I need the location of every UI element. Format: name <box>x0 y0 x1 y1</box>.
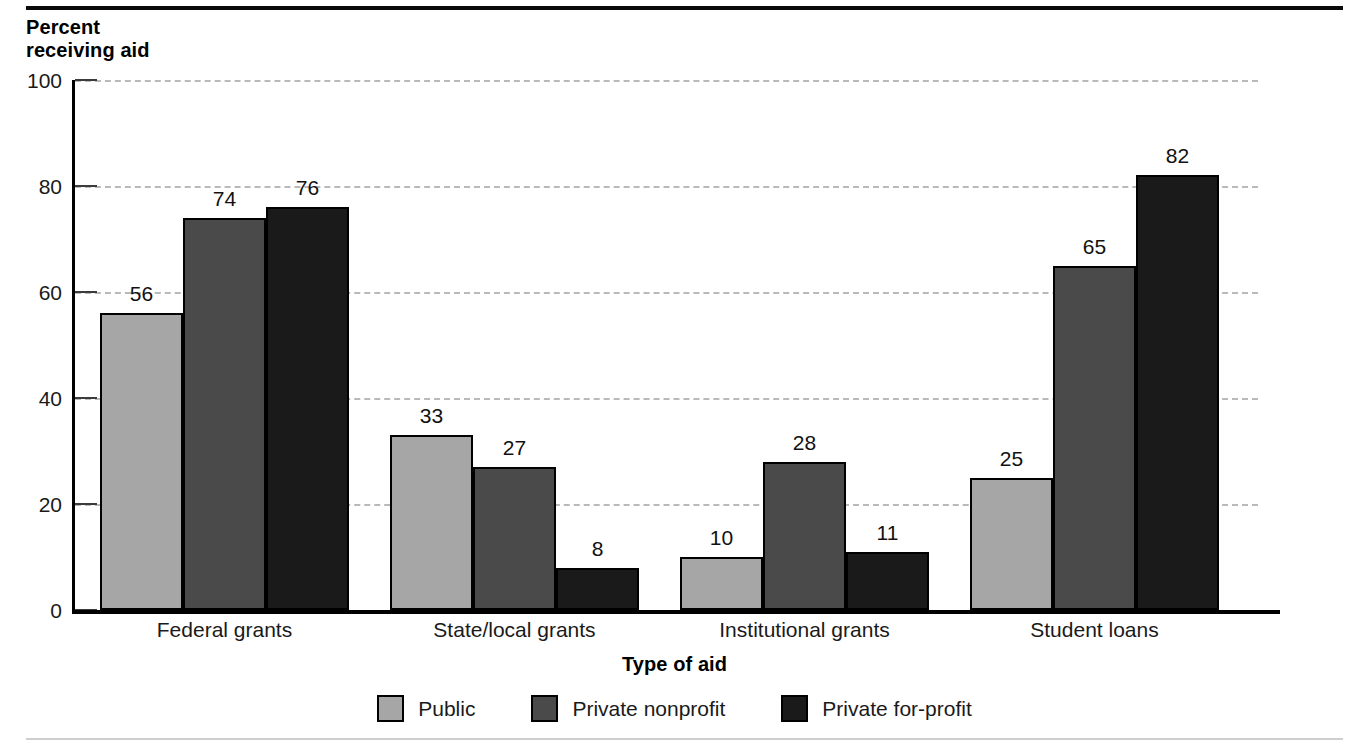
legend-swatch-icon <box>781 695 808 722</box>
legend-label: Public <box>418 698 475 719</box>
bar-value-label: 11 <box>836 522 939 543</box>
y-axis-tick <box>75 503 97 505</box>
bar <box>266 207 349 610</box>
legend-item[interactable]: Private for-profit <box>781 695 971 722</box>
bar-value-label: 28 <box>753 432 856 453</box>
legend-item[interactable]: Public <box>377 695 475 722</box>
bar-value-label: 10 <box>670 527 773 548</box>
y-axis-tick-label: 60 <box>2 282 62 303</box>
bar <box>1136 175 1219 610</box>
x-axis-line <box>72 610 1280 614</box>
bar-value-label: 8 <box>546 538 649 559</box>
bar-value-label: 82 <box>1126 145 1229 166</box>
bar <box>970 478 1053 611</box>
bar <box>100 313 183 610</box>
bar-value-label: 56 <box>90 283 193 304</box>
bar-value-label: 27 <box>463 437 566 458</box>
plot-area: 020406080100 56747633278102811256582 <box>72 80 1280 610</box>
y-axis-tick-label: 20 <box>2 494 62 515</box>
bar-value-label: 76 <box>256 177 359 198</box>
legend-swatch-icon <box>531 695 558 722</box>
top-rule <box>26 6 1343 10</box>
bottom-rule <box>26 738 1343 740</box>
legend-label: Private nonprofit <box>572 698 725 719</box>
y-axis-tick <box>75 397 97 399</box>
gridline <box>75 80 1258 82</box>
bar <box>680 557 763 610</box>
legend-swatch-icon <box>377 695 404 722</box>
bar-value-label: 33 <box>380 405 483 426</box>
y-axis-title: Percent receiving aid <box>26 16 150 62</box>
y-axis-tick-label: 40 <box>2 388 62 409</box>
bar <box>183 218 266 610</box>
legend-item[interactable]: Private nonprofit <box>531 695 725 722</box>
y-axis-tick-label: 80 <box>2 176 62 197</box>
y-axis-tick <box>75 185 97 187</box>
bar <box>1053 266 1136 611</box>
bar <box>556 568 639 610</box>
x-axis-title: Type of aid <box>0 653 1349 676</box>
x-axis-category-label: Student loans <box>910 618 1279 642</box>
legend: PublicPrivate nonprofitPrivate for-profi… <box>0 695 1349 722</box>
bar <box>846 552 929 610</box>
legend-label: Private for-profit <box>822 698 971 719</box>
bar <box>390 435 473 610</box>
y-axis-tick-label: 100 <box>2 70 62 91</box>
bar-value-label: 25 <box>960 448 1063 469</box>
bar <box>473 467 556 610</box>
bar <box>763 462 846 610</box>
y-axis-tick <box>75 79 97 81</box>
y-axis-line <box>72 80 75 611</box>
bar-value-label: 65 <box>1043 236 1146 257</box>
